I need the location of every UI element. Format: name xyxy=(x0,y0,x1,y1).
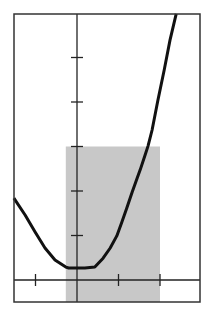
function-plot xyxy=(0,0,212,310)
shaded-region xyxy=(66,147,160,303)
